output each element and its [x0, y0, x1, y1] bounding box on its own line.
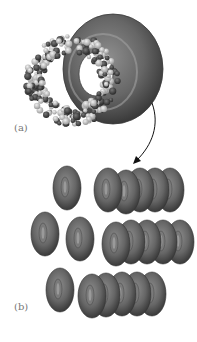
figure: (a) (b) [0, 0, 197, 342]
torus-stack [31, 166, 194, 318]
panel-b-label: (b) [14, 301, 28, 312]
diagram-canvas [0, 0, 197, 342]
panel-a-label: (a) [14, 122, 28, 133]
